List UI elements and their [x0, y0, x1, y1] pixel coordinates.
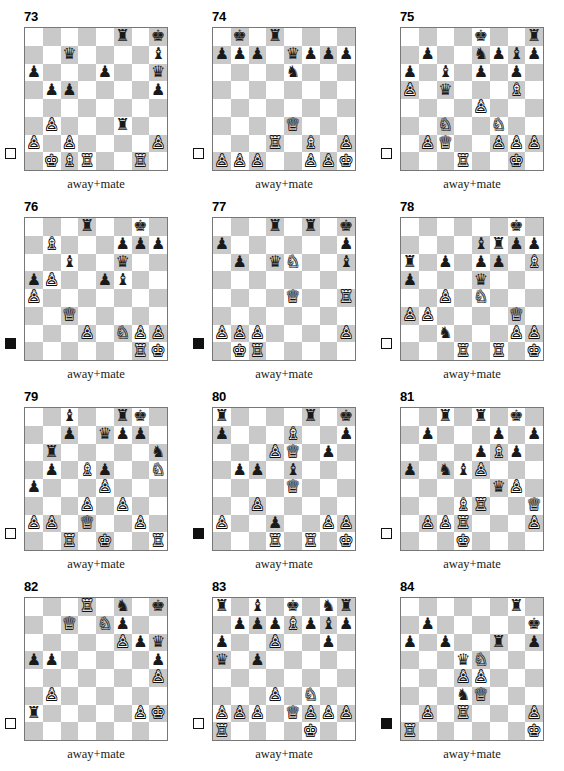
square-a7[interactable] [401, 46, 419, 64]
square-h1[interactable]: ♔ [525, 342, 543, 360]
piece-wP[interactable]: ♙ [527, 325, 541, 341]
square-h7[interactable]: ♟ [525, 426, 543, 444]
square-c3[interactable] [437, 307, 455, 325]
square-b4[interactable] [43, 479, 61, 497]
square-d6[interactable]: ♛ [266, 254, 284, 272]
square-c3[interactable] [249, 687, 267, 705]
square-h7[interactable]: ♟ [149, 236, 167, 254]
square-f7[interactable] [302, 236, 320, 254]
square-a3[interactable] [401, 687, 419, 705]
square-g8[interactable]: ♚ [508, 408, 526, 426]
square-f6[interactable]: ♗ [490, 444, 508, 462]
chess-board[interactable]: ♜♚♛♝♟♟♛♟♟♟♙♜♙♙♙♔♗♖♖ [24, 27, 168, 171]
square-a3[interactable] [25, 497, 43, 515]
piece-wR[interactable]: ♖ [474, 497, 488, 513]
square-e5[interactable]: ♛ [472, 271, 490, 289]
piece-bQ[interactable]: ♛ [215, 652, 229, 668]
square-a2[interactable] [213, 135, 231, 153]
piece-bP[interactable]: ♟ [491, 46, 505, 62]
piece-bK[interactable]: ♚ [509, 408, 523, 424]
square-d2[interactable] [78, 705, 96, 723]
square-g4[interactable] [320, 99, 338, 117]
square-b6[interactable] [419, 634, 437, 652]
square-e4[interactable] [284, 669, 302, 687]
piece-wN[interactable]: ♘ [303, 687, 317, 703]
square-e5[interactable]: ♙ [472, 461, 490, 479]
square-c1[interactable]: ♗ [61, 152, 79, 170]
square-b8[interactable] [43, 598, 61, 616]
square-b2[interactable]: ♙ [419, 705, 437, 723]
square-d5[interactable] [266, 81, 284, 99]
chess-board[interactable]: ♚♜♟♟♟♛♟♟♟♞♕♖♗♙♙♙♙♙♙♔ [212, 27, 356, 171]
square-g2[interactable]: ♙ [132, 705, 150, 723]
piece-wK[interactable]: ♔ [339, 153, 353, 169]
square-a4[interactable]: ♙ [25, 289, 43, 307]
square-b7[interactable] [231, 426, 249, 444]
piece-bN[interactable]: ♞ [321, 598, 335, 614]
piece-bR[interactable]: ♜ [339, 598, 353, 614]
square-h2[interactable]: ♙ [525, 515, 543, 533]
square-h1[interactable] [337, 342, 355, 360]
piece-bB[interactable]: ♝ [250, 598, 264, 614]
piece-bR[interactable]: ♜ [474, 408, 488, 424]
square-b3[interactable] [231, 307, 249, 325]
square-f5[interactable] [114, 461, 132, 479]
piece-wQ[interactable]: ♕ [286, 444, 300, 460]
square-d2[interactable] [266, 705, 284, 723]
square-b4[interactable] [231, 289, 249, 307]
square-e3[interactable] [472, 117, 490, 135]
square-a4[interactable] [25, 99, 43, 117]
square-a4[interactable] [401, 479, 419, 497]
square-h4[interactable]: ♖ [337, 289, 355, 307]
square-h3[interactable] [149, 497, 167, 515]
square-b2[interactable]: ♙ [231, 705, 249, 723]
square-e7[interactable]: ♝ [472, 236, 490, 254]
square-g5[interactable] [132, 461, 150, 479]
square-f5[interactable] [302, 651, 320, 669]
square-a5[interactable]: ♟ [25, 271, 43, 289]
square-c8[interactable] [437, 598, 455, 616]
square-a7[interactable]: ♟ [213, 46, 231, 64]
piece-wP[interactable]: ♙ [420, 515, 434, 531]
square-a6[interactable]: ♟ [401, 634, 419, 652]
piece-bP[interactable]: ♟ [98, 462, 112, 478]
piece-wP[interactable]: ♙ [509, 325, 523, 341]
square-d8[interactable] [454, 218, 472, 236]
square-g3[interactable]: ♕ [508, 307, 526, 325]
piece-wK[interactable]: ♔ [509, 153, 523, 169]
square-f3[interactable]: ♘ [490, 117, 508, 135]
square-f7[interactable]: ♟ [114, 616, 132, 634]
piece-bQ[interactable]: ♛ [438, 82, 452, 98]
square-b6[interactable] [231, 634, 249, 652]
square-h7[interactable]: ♟ [525, 236, 543, 254]
square-a6[interactable]: ♟ [401, 64, 419, 82]
piece-wN[interactable]: ♘ [98, 616, 112, 632]
square-d3[interactable]: ♗ [454, 497, 472, 515]
square-e7[interactable]: ♛ [284, 46, 302, 64]
square-d5[interactable]: ♛ [454, 651, 472, 669]
piece-wP[interactable]: ♙ [27, 515, 41, 531]
square-a5[interactable] [213, 81, 231, 99]
square-g4[interactable] [508, 669, 526, 687]
square-c4[interactable] [249, 289, 267, 307]
piece-wN[interactable]: ♘ [438, 117, 452, 133]
piece-wP[interactable]: ♙ [232, 153, 246, 169]
square-f1[interactable] [114, 722, 132, 740]
square-h2[interactable]: ♙ [525, 705, 543, 723]
square-b2[interactable] [43, 325, 61, 343]
square-c8[interactable]: ♜ [437, 408, 455, 426]
square-a1[interactable]: ♙ [213, 152, 231, 170]
square-f5[interactable] [302, 271, 320, 289]
piece-wP[interactable]: ♙ [339, 325, 353, 341]
square-g1[interactable]: ♙ [320, 152, 338, 170]
square-h6[interactable]: ♛ [149, 64, 167, 82]
square-g2[interactable] [320, 325, 338, 343]
square-g8[interactable] [320, 28, 338, 46]
piece-wQ[interactable]: ♕ [474, 687, 488, 703]
square-g4[interactable] [320, 669, 338, 687]
square-h7[interactable]: ♟ [337, 616, 355, 634]
square-f7[interactable] [114, 46, 132, 64]
square-e4[interactable] [96, 99, 114, 117]
square-b4[interactable] [43, 669, 61, 687]
piece-bP[interactable]: ♟ [115, 426, 129, 442]
